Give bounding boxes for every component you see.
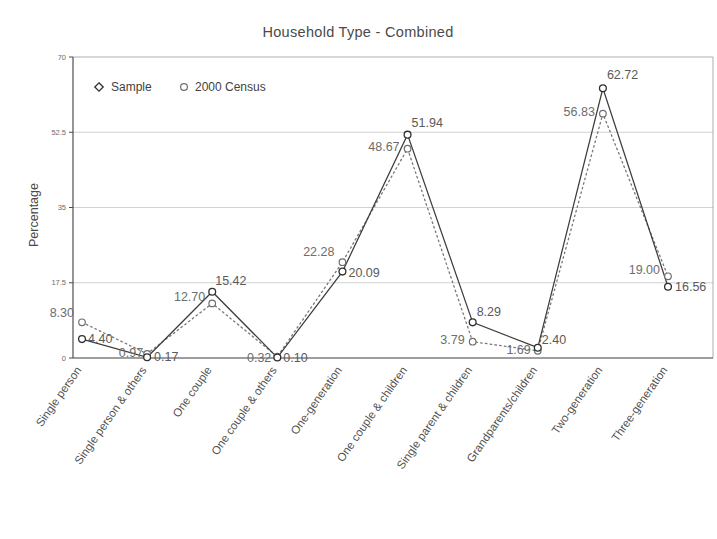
sample-data-label: 2.40 [542,333,566,347]
census-data-point[interactable] [209,300,216,307]
y-axis-tick-label: 52.5 [51,128,66,137]
census-data-point[interactable] [665,273,672,280]
sample-data-point[interactable] [209,288,216,295]
sample-data-label: 51.94 [412,116,443,130]
legend-label-2000-census[interactable]: 2000 Census [195,80,266,94]
diamond-marker-icon [95,83,103,91]
y-axis-tick-label: 35 [58,203,66,212]
y-axis-tick-label: 0 [62,354,66,363]
x-axis-category-label: One couple & children [334,364,409,464]
sample-data-point[interactable] [534,344,541,351]
census-data-point[interactable] [600,110,607,117]
series-2000-census-data-labels: 8.300.9712.700.3222.2848.673.791.6956.83… [50,105,660,365]
circle-marker-icon [181,84,188,91]
census-data-point[interactable] [79,319,86,326]
census-data-label: 19.00 [629,263,660,277]
y-axis-tick-label: 70 [58,53,66,62]
grid-lines [73,57,713,283]
sample-data-point[interactable] [339,268,346,275]
x-axis-category-label: One couple & others [209,364,279,457]
legend-label-sample[interactable]: Sample [111,80,152,94]
census-data-label: 12.70 [174,290,205,304]
x-axis-category-labels: Single personSingle person & othersOne c… [33,364,669,471]
sample-data-label: 0.10 [283,351,307,365]
sample-data-point[interactable] [404,131,411,138]
sample-data-label: 4.40 [88,332,112,346]
x-axis-category-label: Grandparents/children [464,364,539,464]
x-axis-category-label: Two-generation [549,364,604,436]
census-data-point[interactable] [339,259,346,266]
census-data-point[interactable] [469,338,476,345]
sample-data-point[interactable] [599,85,606,92]
y-axis-title: Percentage [27,183,41,247]
census-data-label: 3.79 [440,333,464,347]
sample-data-point[interactable] [469,319,476,326]
census-data-label: 1.69 [506,343,530,357]
census-data-label: 0.97 [119,346,143,360]
sample-data-label: 20.09 [348,266,379,280]
census-data-label: 48.67 [368,140,399,154]
census-data-label: 0.32 [247,351,271,365]
sample-data-label: 62.72 [607,68,638,82]
x-axis-category-label: Single parent & children [394,364,474,471]
sample-data-label: 0.17 [154,350,178,364]
chart-container: Household Type - Combined 017.53552.570 … [0,0,717,539]
series-sample-markers [79,85,672,361]
household-type-line-chart: Household Type - Combined 017.53552.570 … [0,0,717,539]
chart-title: Household Type - Combined [262,24,453,40]
x-axis-category-label: Single person [33,364,83,428]
x-axis-category-label: One-generation [288,364,344,436]
census-data-label: 22.28 [303,245,334,259]
series-sample-data-labels: 4.400.1715.420.1020.0951.948.292.4062.72… [88,68,706,364]
sample-data-point[interactable] [144,354,151,361]
sample-data-label: 15.42 [215,274,246,288]
x-axis-category-label: Three-generation [609,364,669,443]
chart-legend[interactable]: Sample2000 Census [95,80,266,94]
x-axis-category-label: Single person & others [72,364,149,466]
sample-data-label: 16.56 [675,280,706,294]
sample-polyline [82,88,668,357]
x-axis-category-label: One couple [170,364,214,419]
census-data-point[interactable] [404,145,411,152]
sample-data-point[interactable] [665,283,672,290]
series-sample-line [82,88,668,357]
y-axis-tick-label: 17.5 [51,278,66,287]
sample-data-point[interactable] [274,354,281,361]
census-data-label: 56.83 [564,105,595,119]
sample-data-point[interactable] [79,336,86,343]
sample-data-label: 8.29 [477,305,501,319]
census-data-label: 8.30 [50,306,74,320]
